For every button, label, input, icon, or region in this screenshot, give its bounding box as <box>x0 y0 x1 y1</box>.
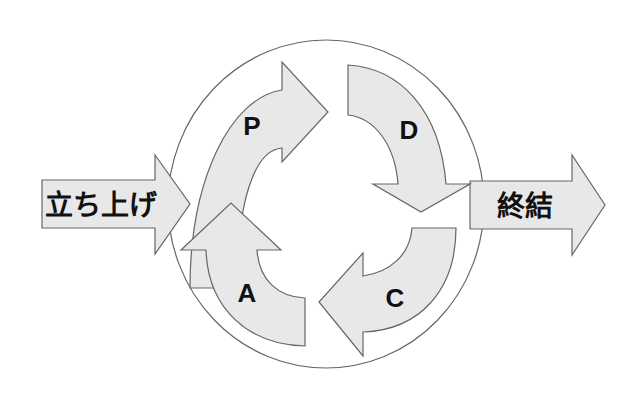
do-arrow: D <box>348 65 470 212</box>
check-arrow: C <box>319 228 456 356</box>
do-label: D <box>400 115 419 145</box>
act-label: A <box>238 278 257 308</box>
plan-label: P <box>243 111 260 141</box>
end-label: 終結 <box>497 190 553 222</box>
check-label: C <box>386 283 405 313</box>
end-arrow: 終結 <box>470 155 605 255</box>
pdca-diagram: 立ち上げ 終結 P D C A <box>0 0 643 394</box>
start-label: 立ち上げ <box>45 189 158 221</box>
start-arrow: 立ち上げ <box>42 155 190 254</box>
